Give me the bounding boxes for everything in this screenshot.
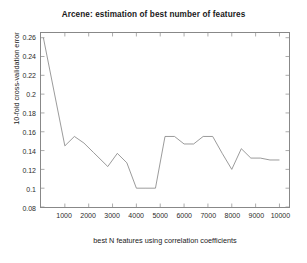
chart-title: Arcene: estimation of best number of fea… (0, 10, 307, 19)
x-tick-label: 1000 (56, 212, 72, 219)
y-tick-label: 0.26 (22, 33, 36, 40)
x-tick-label: 4000 (128, 212, 144, 219)
plot-area (40, 32, 290, 208)
x-tick-label: 2000 (80, 212, 96, 219)
x-tick-label: 5000 (152, 212, 168, 219)
y-tick-label: 0.14 (22, 147, 36, 154)
y-axis-tick-labels: 0.080.10.120.140.160.180.20.220.240.26 (0, 32, 36, 208)
axis-ticks (41, 33, 289, 207)
x-tick-label: 8000 (225, 212, 241, 219)
y-tick-label: 0.22 (22, 71, 36, 78)
y-tick-label: 0.24 (22, 52, 36, 59)
x-tick-label: 6000 (176, 212, 192, 219)
y-tick-label: 0.18 (22, 109, 36, 116)
x-axis-tick-labels: 1000200030004000500060007000800090001000… (40, 212, 290, 224)
data-line-series (43, 38, 279, 188)
y-tick-label: 0.12 (22, 166, 36, 173)
y-tick-label: 0.16 (22, 128, 36, 135)
line-series-svg (41, 33, 289, 207)
x-axis-label: best N features using correlation coeffi… (40, 236, 290, 245)
x-tick-label: 10000 (271, 212, 290, 219)
y-tick-label: 0.08 (22, 205, 36, 212)
chart-figure: Arcene: estimation of best number of fea… (0, 0, 307, 263)
x-tick-label: 3000 (104, 212, 120, 219)
y-tick-label: 0.2 (26, 90, 36, 97)
y-tick-label: 0.1 (26, 185, 36, 192)
x-tick-label: 7000 (200, 212, 216, 219)
x-tick-label: 9000 (249, 212, 265, 219)
